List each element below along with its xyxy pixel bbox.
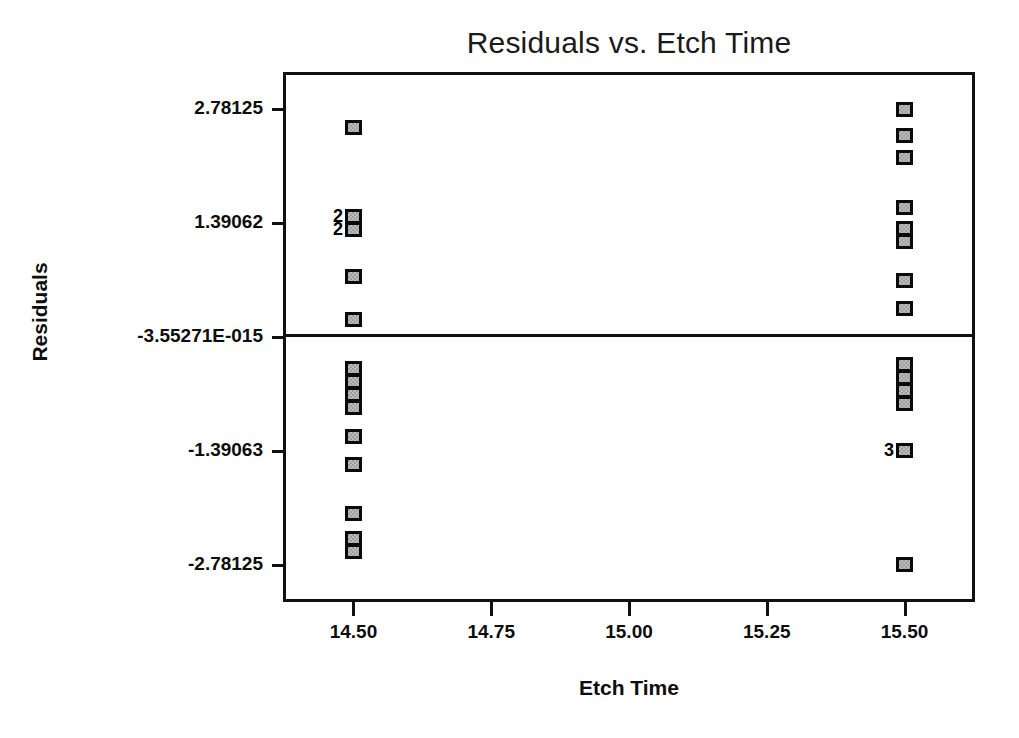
data-point-marker bbox=[345, 269, 362, 284]
x-axis-tick-label: 15.25 bbox=[687, 621, 847, 643]
y-axis-tick bbox=[272, 108, 286, 111]
x-axis-tick bbox=[490, 602, 493, 616]
plot-area: 223 bbox=[283, 72, 975, 602]
data-point-marker bbox=[896, 557, 913, 572]
x-axis-tick bbox=[352, 602, 355, 616]
x-axis-tick bbox=[904, 602, 907, 616]
data-point-marker bbox=[896, 234, 913, 249]
data-point-marker bbox=[896, 200, 913, 215]
y-axis-tick-label: 2.78125 bbox=[194, 97, 263, 119]
data-point-marker bbox=[345, 400, 362, 415]
data-point-marker bbox=[896, 150, 913, 165]
data-point-marker bbox=[345, 120, 362, 135]
x-axis-tick bbox=[628, 602, 631, 616]
x-axis-tick-label: 14.75 bbox=[411, 621, 571, 643]
y-axis-tick-label: -1.39063 bbox=[188, 439, 263, 461]
zero-reference-line bbox=[286, 334, 972, 337]
data-point-marker bbox=[345, 429, 362, 444]
data-point-marker bbox=[896, 128, 913, 143]
x-axis-tick-label: 14.50 bbox=[273, 621, 433, 643]
y-axis-tick bbox=[272, 450, 286, 453]
x-axis-tick-label: 15.00 bbox=[549, 621, 709, 643]
y-axis-tick-label: -2.78125 bbox=[188, 553, 263, 575]
data-point-marker bbox=[345, 506, 362, 521]
chart-figure: Residuals vs. Etch Time 223 Residuals Et… bbox=[0, 0, 1019, 738]
data-point-marker bbox=[896, 443, 913, 458]
y-axis-tick bbox=[272, 336, 286, 339]
y-axis-tick-label: 1.39062 bbox=[194, 211, 263, 233]
data-point-marker bbox=[896, 273, 913, 288]
data-point-marker bbox=[345, 222, 362, 237]
y-axis-title: Residuals bbox=[28, 232, 52, 392]
x-axis-title: Etch Time bbox=[283, 676, 975, 700]
data-point-marker bbox=[896, 301, 913, 316]
data-point-marker bbox=[345, 312, 362, 327]
x-axis-tick bbox=[766, 602, 769, 616]
data-point-marker bbox=[896, 396, 913, 411]
data-point-marker bbox=[896, 102, 913, 117]
marker-count-label: 3 bbox=[880, 440, 894, 461]
marker-count-label: 2 bbox=[329, 219, 343, 240]
x-axis-tick-label: 15.50 bbox=[825, 621, 985, 643]
data-point-marker bbox=[345, 544, 362, 559]
y-axis-tick-label: -3.55271E-015 bbox=[137, 325, 263, 347]
y-axis-tick bbox=[272, 222, 286, 225]
data-point-marker bbox=[345, 457, 362, 472]
page-title: Residuals vs. Etch Time bbox=[283, 26, 975, 60]
y-axis-tick bbox=[272, 564, 286, 567]
